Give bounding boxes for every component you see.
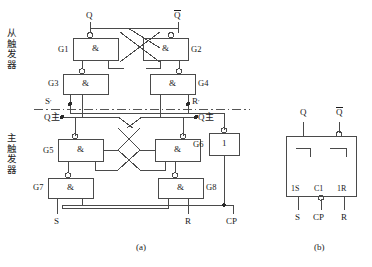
symbolb-input-S: S [295, 213, 300, 222]
input-label-CP: CP [226, 217, 237, 226]
gate-G2-bubble [168, 33, 173, 38]
gate-label-G4: G4 [198, 79, 208, 88]
symbolb-pin-1R: 1R [337, 185, 346, 193]
input-wires-bottom [57, 198, 233, 214]
gate-label-G5: G5 [43, 146, 53, 155]
figure-root: 从触发器 主触发器 Q Q G1 G2 G3 G4 G5 G6 G7 G8 & … [0, 0, 372, 267]
node-label-Q-master-right: Q主 [198, 113, 214, 122]
gate-symbol-G6: 1 [222, 139, 227, 148]
circuit-canvas [0, 0, 372, 267]
gate-G7-bubble [65, 173, 70, 178]
gate-symbol-G4: & [169, 79, 176, 88]
group-label-slave: 从触发器 [6, 28, 16, 70]
symbolb-input-CP: CP [313, 213, 324, 222]
gate-symbol-G2: & [162, 44, 169, 53]
gate-symbol-master-right: & [174, 145, 181, 154]
g3-g4-input-wires [70, 94, 188, 117]
symbolb-input-R: R [341, 213, 347, 222]
gate-symbol-G7: & [67, 183, 74, 192]
q-master-rails [62, 117, 196, 128]
symbolb-pin-C1: C1 [314, 185, 323, 193]
gate-G1-bubble [87, 33, 92, 38]
group-label-master: 主触发器 [6, 133, 16, 175]
caption-b: (b) [314, 243, 325, 252]
gate-symbol-G5: & [77, 145, 84, 154]
gate-label-G8: G8 [206, 183, 216, 192]
symbolb-output-Q-label: Q [300, 108, 307, 117]
caption-a: (a) [136, 243, 146, 252]
gate-label-G1: G1 [58, 45, 68, 54]
gate-label-G3: G3 [48, 79, 58, 88]
node-label-S-prime: S′ [45, 97, 52, 106]
input-label-R: R [185, 217, 191, 226]
input-label-S: S [54, 217, 59, 226]
gate-symbol-G8: & [177, 183, 184, 192]
symbolb-output-Qbar-label: Q [336, 107, 343, 117]
gate-label-G7: G7 [33, 183, 43, 192]
symbol-b-graphics [286, 122, 356, 210]
gate-G4-bubble [176, 69, 181, 74]
gate-symbol-G3: & [82, 79, 89, 88]
node-label-Q-master-left: Q主 [44, 113, 60, 122]
gate-G3-bubble [79, 69, 84, 74]
gate-symbol-G1: & [92, 44, 99, 53]
symbolb-pin-1S: 1S [291, 185, 299, 193]
gate-G8-bubble [172, 173, 177, 178]
gate-label-G2: G2 [191, 45, 201, 54]
output-Q-label: Q [86, 11, 93, 20]
gate-label-G6: G6 [193, 140, 203, 149]
output-Qbar-label: Q [174, 10, 181, 20]
node-label-R-prime: R′ [192, 97, 200, 106]
